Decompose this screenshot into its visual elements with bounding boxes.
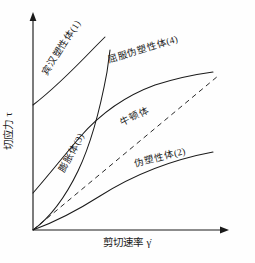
y-axis-label: 切应力 τ xyxy=(4,112,15,150)
plot-canvas xyxy=(0,0,255,263)
arrow-up-icon xyxy=(30,12,37,21)
x-axis-label: 剪切速率 γ̇ xyxy=(103,238,151,249)
rheology-flow-curve-figure: 宾汉塑性体(1) 屈服伪塑性体(4) 膨胀体(3) 牛顿体 伪塑性体(2) 剪切… xyxy=(0,0,255,263)
arrow-right-icon xyxy=(220,227,229,234)
curve-yield-pseudoplastic xyxy=(33,72,213,193)
